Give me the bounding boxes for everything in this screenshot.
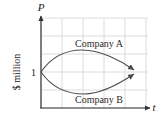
series-label-company-a: Company A	[75, 38, 124, 49]
chart-canvas: P t 1 $ million Company A Company B	[0, 0, 158, 125]
y-tick-label-1: 1	[31, 67, 36, 78]
series-line-company-b	[41, 72, 134, 94]
series-label-company-b: Company B	[75, 94, 123, 105]
x-axis-symbol: t	[152, 101, 156, 113]
chart-figure: P t 1 $ million Company A Company B	[0, 0, 158, 125]
series-line-company-a	[41, 50, 134, 72]
y-axis-title: $ million	[11, 54, 22, 90]
y-axis-symbol: P	[37, 1, 45, 13]
